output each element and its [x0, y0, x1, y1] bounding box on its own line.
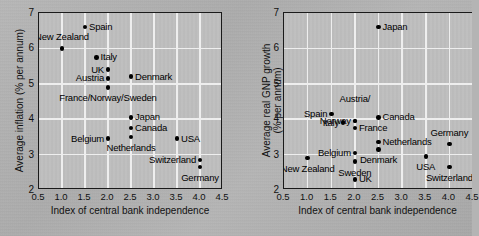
data-point-belgium	[106, 136, 111, 141]
point-label-belgium: Belgium	[71, 134, 104, 144]
data-point-denmark	[129, 74, 134, 79]
y-axis-tick: 6	[28, 42, 34, 53]
data-point-new-zealand	[60, 46, 65, 51]
point-label-italy: Italy	[101, 52, 117, 62]
point-label-uk: UK	[359, 174, 372, 184]
x-axis-tick: 1.0	[300, 191, 313, 202]
x-axis-tick: 1.0	[54, 191, 67, 202]
gridline-horizontal	[39, 48, 221, 50]
point-label-canada: Canada	[135, 123, 167, 133]
point-label-austria: Austria/	[340, 94, 371, 104]
gridline-horizontal	[284, 48, 472, 50]
point-label-new-zealand: New Zealand	[38, 32, 89, 42]
x-axis-tick: 0.5	[31, 191, 44, 202]
data-point-uk	[106, 67, 111, 72]
data-point-netherlands	[376, 140, 381, 145]
x-axis-tick: 3.0	[395, 191, 408, 202]
gridline-horizontal	[284, 83, 472, 85]
gridline-vertical	[449, 13, 451, 188]
x-axis-tick: 0.5	[276, 191, 289, 202]
y-axis-tick: 4	[28, 113, 34, 124]
x-axis-tick: 1.5	[77, 191, 90, 202]
data-point-uk	[353, 177, 358, 182]
gridline-horizontal	[39, 83, 221, 85]
point-label-germany: Germany	[181, 173, 219, 183]
point-label-switzerland: Switzerland	[149, 155, 196, 165]
data-point-usa	[424, 154, 429, 159]
data-point-switzerland	[447, 165, 452, 170]
x-axis-tick: 3.5	[418, 191, 431, 202]
data-point-canada	[129, 126, 134, 131]
x-axis-tick: 2.0	[347, 191, 360, 202]
y-axis-title: Average inflation (% per annum)	[14, 12, 25, 189]
data-point-new-zealand	[305, 156, 310, 161]
x-axis-title: Index of central bank independence	[51, 205, 209, 216]
point-label-belgium: Belgium	[318, 148, 351, 158]
point-label-usa: USA	[181, 134, 200, 144]
y-axis-tick: 7	[28, 7, 34, 18]
point-label-spain: Spain	[89, 22, 112, 32]
plot-area: SpainNew ZealandItalyUKAustriaDenmarkFra…	[38, 12, 222, 189]
plot-area: JapanCanadaSpainAustria/NorwayItalyFranc…	[283, 12, 472, 189]
x-axis-tick: 2.5	[371, 191, 384, 202]
data-point-japan	[129, 115, 134, 120]
point-label-netherlands: Netherlands	[106, 143, 155, 153]
x-axis-tick: 2.5	[123, 191, 136, 202]
point-label-switzerland: Switzerland	[426, 173, 472, 183]
gridline-vertical	[401, 13, 403, 188]
x-axis-title: Index of central bank independence	[298, 205, 456, 216]
x-axis-tick: 4.0	[442, 191, 455, 202]
chart-gnp-growth: JapanCanadaSpainAustria/NorwayItalyFranc…	[236, 0, 472, 236]
data-point-germany	[447, 142, 452, 147]
point-label-italy: Italy	[323, 118, 339, 128]
data-point-france	[353, 126, 358, 131]
point-label-denmark: Denmark	[135, 72, 172, 82]
data-point-norway	[353, 119, 358, 124]
point-label-canada: Canada	[383, 112, 415, 122]
x-axis-tick: 2.0	[100, 191, 113, 202]
x-axis-tick: 3.0	[146, 191, 159, 202]
data-point-japan	[376, 25, 381, 30]
y-axis-tick: 3	[28, 148, 34, 159]
point-label-france-norway-sweden: France/Norway/Sweden	[59, 93, 156, 103]
x-axis-tick: 4.5	[465, 191, 478, 202]
x-axis-tick: 4.5	[215, 191, 228, 202]
data-point-italy	[94, 55, 99, 60]
point-label-usa: USA	[416, 162, 435, 172]
data-point-switzerland	[198, 158, 203, 163]
point-label-denmark: Denmark	[360, 155, 397, 165]
data-point-austria	[106, 76, 111, 81]
point-label-austria: Austria	[76, 73, 104, 83]
data-point-spain	[83, 25, 88, 30]
chart-inflation: SpainNew ZealandItalyUKAustriaDenmarkFra…	[0, 0, 236, 236]
point-label-germany: Germany	[431, 128, 469, 138]
data-point-canada	[376, 115, 381, 120]
x-axis-tick: 1.5	[324, 191, 337, 202]
x-axis-tick: 4.0	[192, 191, 205, 202]
data-point-france-norway-sweden	[106, 85, 111, 90]
x-axis-tick: 3.5	[169, 191, 182, 202]
data-point-germany	[198, 165, 203, 170]
data-point-netherlands	[129, 135, 134, 140]
point-label-new-zealand: New Zealand	[283, 164, 335, 174]
data-point-sweden	[353, 159, 358, 164]
data-point-denmark	[376, 147, 381, 152]
point-label-japan: Japan	[135, 112, 160, 122]
data-point-usa	[175, 136, 180, 141]
gridline-vertical	[331, 13, 333, 188]
gridline-vertical	[307, 13, 309, 188]
point-label-france: France	[359, 123, 387, 133]
point-label-netherlands: Netherlands	[383, 137, 432, 147]
point-label-japan: Japan	[383, 22, 408, 32]
y-axis-title: Average real GNP growth(% per annum)	[261, 12, 283, 189]
y-axis-tick: 5	[28, 77, 34, 88]
